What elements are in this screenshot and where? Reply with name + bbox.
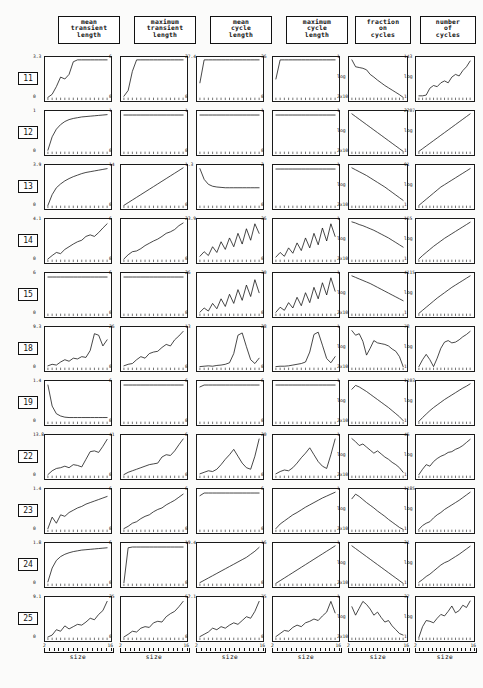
x-axis-mean-cycle-length: 216size: [196, 648, 264, 664]
plot-panel: [196, 488, 264, 534]
y-max-label: 6: [109, 486, 112, 491]
y-max-label: 37: [404, 594, 410, 599]
plot-panel: [196, 434, 264, 480]
plot-cell-23-mean-transient-length: 1.40: [33, 483, 113, 537]
plot-panel: [196, 326, 264, 372]
plot-panel: [415, 542, 475, 588]
plot-panel: [348, 542, 408, 588]
plot-curve-svg: [121, 165, 187, 209]
y-min-label: 0: [185, 364, 188, 369]
plot-panel: [272, 110, 340, 156]
plot-cell-13-fraction-on-cycles: 12x10-4log: [337, 159, 409, 213]
log-scale-label: log: [404, 506, 413, 511]
plot-cell-19-number-of-cycles: 11031log: [404, 375, 476, 429]
log-scale-label: log: [337, 236, 346, 241]
y-min-label: 0: [261, 580, 264, 585]
y-min-label: 0: [33, 364, 36, 369]
x-axis-max-label: 16: [403, 643, 409, 648]
y-min-label: 0: [33, 148, 36, 153]
x-axis-ticks: [415, 648, 475, 652]
plot-panel: [272, 434, 340, 480]
plot-curve-svg: [273, 435, 339, 479]
y-min-label: 0: [185, 148, 188, 153]
plot-cell-24-number-of-cycles: 311log: [404, 537, 476, 591]
y-min-label: 0: [185, 526, 188, 531]
y-max-label: 6: [261, 486, 264, 491]
plot-panel: [272, 56, 340, 102]
plot-cell-18-maximum-cycle-length: 280: [261, 321, 341, 375]
y-min-label: 0: [109, 94, 112, 99]
plot-cell-23-maximum-cycle-length: 60: [261, 483, 341, 537]
plot-panel: [120, 110, 188, 156]
y-max-label: 1: [337, 216, 340, 221]
plot-curve-svg: [45, 597, 111, 641]
plot-cell-19-maximum-transient-length: 60: [109, 375, 189, 429]
plot-cell-22-fraction-on-cycles: 12x10-4log: [337, 429, 409, 483]
x-axis-min-label: 2: [195, 643, 198, 648]
y-min-label: 0: [109, 256, 112, 261]
y-max-label: 28: [261, 324, 267, 329]
y-max-label: 36: [261, 216, 267, 221]
y-min-label: 0: [33, 202, 36, 207]
y-max-label: 2: [261, 162, 264, 167]
plot-curve-svg: [45, 489, 111, 533]
log-scale-label: log: [404, 74, 413, 79]
plot-curve-svg: [273, 57, 339, 101]
plot-curve-svg: [416, 489, 474, 533]
y-min-label: 1: [404, 472, 407, 477]
plot-curve-svg: [416, 543, 474, 587]
plot-panel: [44, 542, 112, 588]
y-max-label: 31: [404, 540, 410, 545]
plot-cell-12-maximum-transient-length: 10: [109, 105, 189, 159]
plot-cell-23-number-of-cycles: 11851log: [404, 483, 476, 537]
y-min-label: 1: [404, 418, 407, 423]
y-min-label: 0: [109, 580, 112, 585]
y-max-label: 25: [109, 594, 115, 599]
plot-panel: [415, 218, 475, 264]
y-min-label: 0: [33, 472, 36, 477]
log-scale-label: log: [337, 398, 346, 403]
plot-cell-24-maximum-cycle-length: 160: [261, 537, 341, 591]
y-max-label: 6: [109, 540, 112, 545]
plot-cell-24-mean-transient-length: 1.80: [33, 537, 113, 591]
plot-panel: [348, 596, 408, 642]
plot-curve-svg: [273, 327, 339, 371]
x-axis-max-label: 16: [259, 643, 265, 648]
plot-curve-svg: [121, 57, 187, 101]
y-max-label: 6: [109, 270, 112, 275]
y-max-label: 23.9: [185, 216, 196, 221]
log-scale-label: log: [404, 614, 413, 619]
y-max-label: 1185: [404, 486, 415, 491]
plot-curve-svg: [349, 219, 407, 263]
log-scale-label: log: [404, 128, 413, 133]
y-max-label: 6: [33, 270, 36, 275]
x-axis-label: size: [44, 653, 112, 660]
plot-panel: [348, 110, 408, 156]
y-min-label: 0: [109, 202, 112, 207]
plot-panel: [272, 542, 340, 588]
y-min-label: 0: [261, 526, 264, 531]
plot-cell-14-mean-transient-length: 4.10: [33, 213, 113, 267]
plot-panel: [120, 326, 188, 372]
column-header-maximum-transient-length: maximum transient length: [134, 16, 196, 44]
plot-curve-svg: [197, 327, 263, 371]
plot-panel: [120, 596, 188, 642]
plot-panel: [415, 110, 475, 156]
plot-cell-11-mean-transient-length: 3.30: [33, 51, 113, 105]
plot-panel: [120, 218, 188, 264]
y-max-label: 1.4: [33, 486, 41, 491]
plot-cell-18-maximum-transient-length: 260: [109, 321, 189, 375]
log-scale-label: log: [337, 344, 346, 349]
plot-curve-svg: [197, 219, 263, 263]
plot-panel: [415, 380, 475, 426]
y-min-label: 0: [33, 94, 36, 99]
plot-curve-svg: [273, 165, 339, 209]
y-min-label: 0: [185, 310, 188, 315]
x-axis-min-label: 2: [271, 643, 274, 648]
plot-curve-svg: [273, 597, 339, 641]
log-scale-label: log: [337, 74, 346, 79]
plot-cell-24-mean-cycle-length: 19.40: [185, 537, 265, 591]
plot-panel: [120, 272, 188, 318]
plot-cell-14-mean-cycle-length: 23.90: [185, 213, 265, 267]
y-max-label: 6: [109, 378, 112, 383]
